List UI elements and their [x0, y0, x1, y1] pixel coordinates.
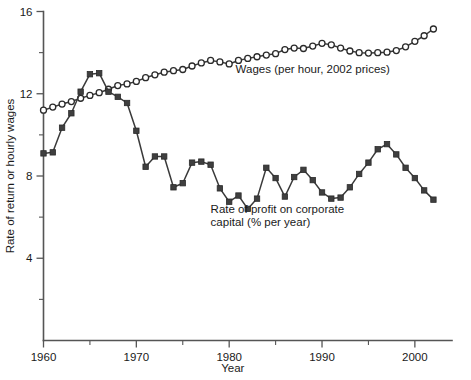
data-point-profit	[143, 164, 148, 169]
data-point-wages	[300, 46, 306, 52]
data-point-wages	[319, 40, 325, 46]
data-point-profit	[421, 188, 426, 193]
data-point-wages	[96, 90, 102, 96]
data-point-wages	[217, 59, 223, 65]
data-point-profit	[180, 181, 185, 186]
data-point-profit	[375, 147, 380, 152]
data-point-profit	[329, 196, 334, 201]
y-tick-label: 16	[20, 6, 33, 18]
data-point-profit	[319, 190, 324, 195]
x-tick-label: 1970	[124, 351, 150, 363]
data-point-wages	[41, 107, 47, 113]
data-point-profit	[310, 177, 315, 182]
data-point-profit	[59, 125, 64, 130]
data-point-wages	[115, 83, 121, 89]
data-point-wages	[356, 50, 362, 56]
data-point-wages	[328, 42, 334, 48]
data-point-wages	[347, 48, 353, 54]
profit-annotation-line2: capital (% per year)	[211, 216, 311, 228]
y-tick-label: 8	[26, 170, 32, 182]
data-point-wages	[412, 38, 418, 44]
data-point-wages	[254, 54, 260, 60]
data-point-profit	[236, 193, 241, 198]
chart-figure: 48121619601970198019902000YearRate of re…	[0, 0, 471, 380]
x-axis-title: Year	[221, 362, 244, 374]
data-point-profit	[41, 151, 46, 156]
data-point-wages	[124, 81, 130, 87]
data-point-wages	[226, 61, 232, 67]
data-point-profit	[106, 89, 111, 94]
data-point-profit	[199, 159, 204, 164]
profit-annotation-line1: Rate of profit on corporate	[211, 203, 345, 215]
data-point-wages	[291, 45, 297, 51]
data-point-profit	[97, 70, 102, 75]
data-point-profit	[431, 197, 436, 202]
data-point-profit	[356, 171, 361, 176]
data-point-profit	[384, 141, 389, 146]
data-point-profit	[69, 111, 74, 116]
y-tick-label: 4	[26, 252, 33, 264]
data-point-profit	[347, 185, 352, 190]
data-point-profit	[366, 160, 371, 165]
data-point-profit	[134, 128, 139, 133]
data-point-profit	[161, 154, 166, 159]
wages-annotation: Wages (per hour, 2002 prices)	[236, 63, 390, 75]
rate-of-return-and-wages-chart: 48121619601970198019902000YearRate of re…	[0, 0, 471, 380]
y-tick-label: 12	[20, 88, 33, 100]
data-point-wages	[189, 63, 195, 69]
y-axis-title: Rate of return or hourly wages	[4, 98, 16, 253]
x-tick-label: 1960	[31, 351, 57, 363]
data-point-wages	[87, 92, 93, 98]
data-point-wages	[421, 33, 427, 39]
data-point-profit	[171, 185, 176, 190]
data-point-profit	[403, 165, 408, 170]
x-tick-label: 2000	[402, 351, 428, 363]
data-point-wages	[133, 78, 139, 84]
data-point-wages	[338, 45, 344, 51]
data-point-wages	[263, 52, 269, 58]
data-point-profit	[291, 174, 296, 179]
data-point-profit	[273, 175, 278, 180]
data-point-wages	[170, 68, 176, 74]
data-point-wages	[161, 69, 167, 75]
data-point-profit	[217, 186, 222, 191]
data-point-profit	[282, 194, 287, 199]
data-point-profit	[50, 150, 55, 155]
data-point-profit	[124, 100, 129, 105]
data-point-profit	[208, 162, 213, 167]
data-point-wages	[430, 26, 436, 32]
data-point-wages	[273, 51, 279, 57]
data-point-wages	[365, 50, 371, 56]
data-point-wages	[143, 75, 149, 81]
data-point-profit	[412, 175, 417, 180]
data-point-wages	[310, 43, 316, 49]
data-point-profit	[152, 154, 157, 159]
data-point-wages	[282, 47, 288, 53]
data-point-wages	[208, 57, 214, 63]
data-point-wages	[245, 55, 251, 61]
data-point-profit	[301, 167, 306, 172]
data-point-wages	[50, 104, 56, 110]
data-point-profit	[264, 165, 269, 170]
data-point-wages	[68, 99, 74, 105]
x-tick-label: 1980	[216, 351, 242, 363]
data-point-wages	[393, 48, 399, 54]
data-point-wages	[180, 66, 186, 72]
data-point-wages	[375, 50, 381, 56]
data-point-profit	[254, 196, 259, 201]
data-point-profit	[78, 89, 83, 94]
data-point-wages	[152, 72, 158, 78]
data-point-wages	[198, 60, 204, 66]
data-point-profit	[394, 152, 399, 157]
data-point-wages	[384, 49, 390, 55]
data-point-wages	[403, 44, 409, 50]
data-point-profit	[338, 195, 343, 200]
data-point-profit	[189, 160, 194, 165]
x-tick-label: 1990	[309, 351, 335, 363]
data-point-profit	[115, 94, 120, 99]
data-point-profit	[87, 72, 92, 77]
data-point-wages	[59, 101, 65, 107]
